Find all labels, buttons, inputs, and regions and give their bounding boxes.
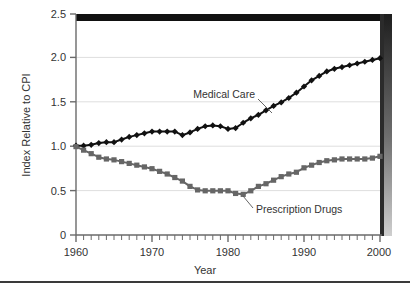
y-tick-label-0: 0 — [60, 229, 66, 241]
data-point — [355, 156, 360, 161]
y-axis-ticks — [70, 14, 76, 235]
data-point — [73, 144, 78, 149]
data-point — [362, 156, 367, 161]
y-axis-tick-labels: 0 0.5 1.0 1.5 2.0 2.5 — [51, 8, 66, 241]
y-tick-label-1-5: 1.5 — [51, 96, 66, 108]
data-point — [263, 181, 268, 186]
data-point — [248, 188, 253, 193]
y-tick-label-0-5: 0.5 — [51, 185, 66, 197]
y-tick-label-2-5: 2.5 — [51, 8, 66, 20]
data-point — [149, 166, 154, 171]
data-point — [81, 148, 86, 153]
annotation-prescription-drugs: Prescription Drugs — [256, 203, 342, 215]
x-tick-label-1960: 1960 — [64, 246, 88, 258]
data-point — [89, 151, 94, 156]
data-point — [324, 158, 329, 163]
data-point — [210, 188, 215, 193]
data-point — [96, 155, 101, 160]
y-tick-label-2-0: 2.0 — [51, 51, 66, 63]
data-point — [134, 163, 139, 168]
x-tick-label-1980: 1980 — [216, 246, 240, 258]
data-point — [370, 155, 375, 160]
y-tick-label-1-0: 1.0 — [51, 140, 66, 152]
chart-plot-area: 0 0.5 1.0 1.5 2.0 2.5 1960 1970 1980 199… — [0, 0, 410, 278]
plot-right-border — [380, 14, 384, 236]
data-point — [301, 165, 306, 170]
x-tick-label-1970: 1970 — [140, 246, 164, 258]
x-axis-title: Year — [194, 264, 217, 276]
data-point — [165, 171, 170, 176]
data-point — [104, 156, 109, 161]
data-point — [233, 191, 238, 196]
data-point — [377, 154, 382, 159]
data-point — [119, 159, 124, 164]
data-point — [256, 184, 261, 189]
data-point — [309, 163, 314, 168]
x-tick-label-1990: 1990 — [292, 246, 316, 258]
data-point — [195, 187, 200, 192]
data-point — [271, 178, 276, 183]
x-axis-tick-labels: 1960 1970 1980 1990 2000 — [64, 246, 391, 258]
data-point — [142, 164, 147, 169]
data-point — [127, 161, 132, 166]
x-axis-ticks — [76, 235, 380, 242]
x-tick-label-2000: 2000 — [367, 246, 391, 258]
frame-shadow — [384, 14, 392, 236]
y-axis-title: Index Relative to CPI — [20, 73, 32, 176]
line-chart: 0 0.5 1.0 1.5 2.0 2.5 1960 1970 1980 199… — [0, 0, 410, 278]
data-point — [111, 157, 116, 162]
data-point — [157, 169, 162, 174]
data-point — [187, 184, 192, 189]
figure-bottom-rule — [0, 281, 410, 283]
data-point — [218, 188, 223, 193]
data-point — [172, 175, 177, 180]
figure-container: 0 0.5 1.0 1.5 2.0 2.5 1960 1970 1980 199… — [0, 0, 410, 295]
data-point — [203, 188, 208, 193]
data-point — [180, 178, 185, 183]
annotation-medical-care: Medical Care — [193, 88, 255, 100]
data-point — [279, 174, 284, 179]
data-point — [332, 157, 337, 162]
data-point — [347, 156, 352, 161]
data-point — [339, 156, 344, 161]
data-point — [225, 188, 230, 193]
plot-top-border — [76, 14, 384, 21]
data-point — [317, 160, 322, 165]
data-point — [286, 171, 291, 176]
data-point — [294, 170, 299, 175]
